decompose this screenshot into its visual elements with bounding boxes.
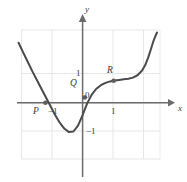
marked-point-r bbox=[111, 79, 116, 84]
y-tick-label-1: 1 bbox=[76, 69, 81, 78]
graph-figure: x y 0 1 −1 1 −1 P Q R bbox=[0, 0, 187, 182]
point-label-r: R bbox=[107, 66, 113, 76]
origin-label: 0 bbox=[85, 91, 90, 100]
curve bbox=[19, 32, 157, 132]
plot-area bbox=[0, 0, 187, 182]
x-axis-arrow bbox=[168, 99, 175, 107]
point-label-p: P bbox=[33, 107, 39, 117]
y-axis-arrow bbox=[79, 14, 87, 22]
y-tick-label-neg1: −1 bbox=[86, 127, 96, 136]
x-tick-label-1: 1 bbox=[111, 107, 116, 116]
marked-point-p bbox=[43, 101, 48, 106]
y-axis-label: y bbox=[85, 5, 89, 14]
axes bbox=[17, 14, 175, 177]
x-tick-label-neg1: −1 bbox=[48, 107, 58, 116]
point-label-q: Q bbox=[70, 79, 77, 89]
x-axis-label: x bbox=[178, 104, 182, 113]
